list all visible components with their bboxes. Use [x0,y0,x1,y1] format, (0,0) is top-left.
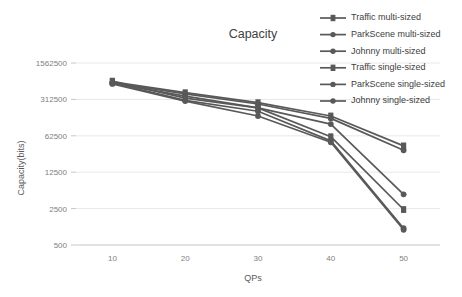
data-point-marker [328,121,334,127]
legend-item-label: ParkScene multi-sized [351,29,441,39]
y-tick-label: 1562500 [36,59,68,68]
x-tick-label: 30 [254,254,263,263]
legend-item-label: Johnny multi-sized [351,46,426,56]
legend-item-label: Johnny single-sized [351,95,430,105]
legend-item-label: Traffic multi-sized [351,12,421,22]
legend-item-label: Traffic single-sized [351,62,426,72]
data-point-marker [328,139,334,145]
x-tick-label: 20 [181,254,190,263]
x-tick-label: 10 [108,254,117,263]
data-point-marker [182,98,188,104]
y-tick-label: 312500 [40,95,67,104]
legend-marker [330,32,335,37]
data-point-marker [401,206,406,213]
y-tick-label: 2500 [49,205,67,214]
y-tick-label: 12500 [45,168,68,177]
capacity-chart: 500250012500625003125001562500 102030405… [0,0,462,297]
chart-background [0,0,462,297]
data-point-marker [401,147,407,153]
legend-marker [330,82,335,87]
legend-marker [331,15,336,21]
data-point-marker [328,115,334,121]
x-axis-title: QPs [244,273,262,283]
data-point-marker [255,113,261,119]
legend-item-label: ParkScene single-sized [351,79,445,89]
data-point-marker [401,191,407,197]
chart-title: Capacity [229,27,278,41]
legend-marker [330,49,335,54]
legend-marker [331,65,336,71]
x-tick-label: 50 [399,254,408,263]
y-axis-title: Capacity(bits) [16,140,26,195]
data-point-marker [110,81,116,87]
y-tick-label: 62500 [45,132,68,141]
chart-canvas: 500250012500625003125001562500 102030405… [0,0,462,297]
x-tick-label: 40 [326,254,335,263]
legend-marker [330,98,335,103]
y-tick-label: 500 [54,241,68,250]
data-point-marker [401,227,407,233]
